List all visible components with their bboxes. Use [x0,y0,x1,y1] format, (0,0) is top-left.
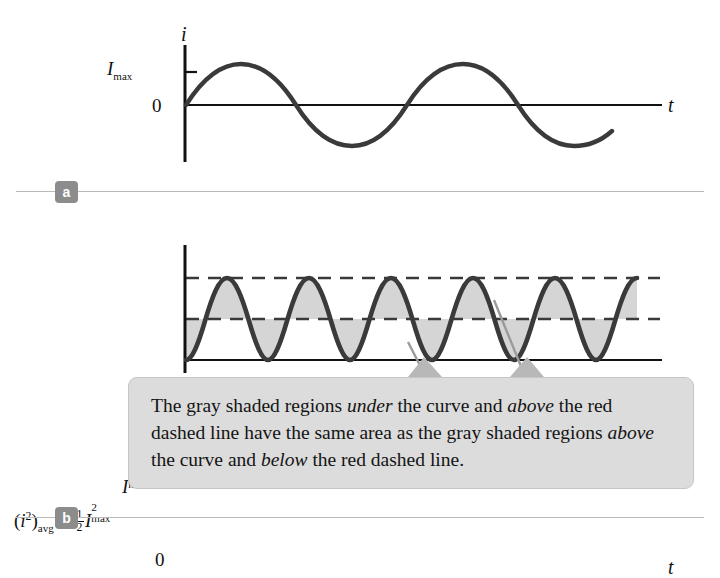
callout-text: The gray shaded regions under the curve … [151,392,671,473]
panel-a-zero-label: 0 [152,96,162,115]
callout-line1-part1: The gray shaded regions [151,395,347,416]
callout-line1-part3: the [554,395,583,416]
callout-line3-part3: the red dashed line. [308,449,465,470]
panel-a-tag: a [55,181,78,203]
panel-a-imax-label: Imax [107,59,132,82]
panel-b-zero-label: 0 [155,550,165,569]
callout-line1-part2: the curve and [393,395,508,416]
panel-a-svg [0,0,720,190]
callout-emphasis-under: under [347,395,393,416]
panel-a-divider: a [0,180,720,204]
panel-b-tag: b [55,507,78,529]
callout-emphasis-below: below [261,449,308,470]
panel-b-rule-line [16,517,704,518]
panel-a-x-axis-label: t [668,95,674,115]
panel-a-current-plot: i t Imax 0 [0,0,720,190]
callout-line3-part2: the curve and [151,449,261,470]
panel-b-divider: b [0,506,720,530]
callout-emphasis-above-1: above [507,395,554,416]
callout-line3-part1: regions [545,422,607,443]
panel-b-x-axis-label: t [668,557,674,577]
callout-box: The gray shaded regions under the curve … [128,377,694,489]
callout-emphasis-above-2: above [607,422,654,443]
panel-a-y-axis-label: i [181,24,187,44]
panel-a-rule-line [16,191,704,192]
